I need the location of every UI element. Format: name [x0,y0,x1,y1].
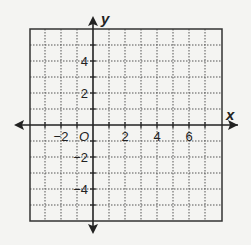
y-tick-label: −4 [73,182,88,197]
y-tick-label: −2 [73,150,88,165]
x-tick-label: 2 [121,129,128,144]
y-tick-label: 2 [81,86,88,101]
origin-label: O [79,129,89,144]
x-tick-label: −2 [54,129,69,144]
x-axis-label: x [225,106,235,123]
y-tick-label: 4 [81,54,88,69]
coordinate-plane: x y O −2246 42−2−4 [0,0,251,245]
y-axis-label: y [100,10,110,27]
x-tick-label: 6 [185,129,192,144]
x-tick-label: 4 [153,129,160,144]
